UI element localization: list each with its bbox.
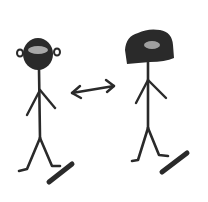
left-figure bbox=[17, 38, 72, 182]
sketch-canvas bbox=[0, 0, 208, 202]
left-ear-right bbox=[54, 49, 60, 56]
left-leg-right bbox=[40, 138, 60, 166]
left-ear-left bbox=[17, 50, 23, 57]
right-leg-left bbox=[132, 128, 148, 161]
left-body bbox=[39, 69, 40, 138]
right-arm-left bbox=[136, 80, 148, 103]
left-arm-right bbox=[40, 90, 55, 108]
right-arm-right bbox=[148, 80, 166, 98]
right-figure bbox=[125, 29, 187, 172]
double-arrow-icon bbox=[72, 80, 114, 98]
right-hair-highlight bbox=[144, 41, 160, 49]
left-leg-left bbox=[19, 138, 40, 171]
left-head-highlight bbox=[28, 46, 48, 54]
right-leg-right bbox=[148, 128, 168, 156]
left-arm-left bbox=[27, 90, 40, 115]
